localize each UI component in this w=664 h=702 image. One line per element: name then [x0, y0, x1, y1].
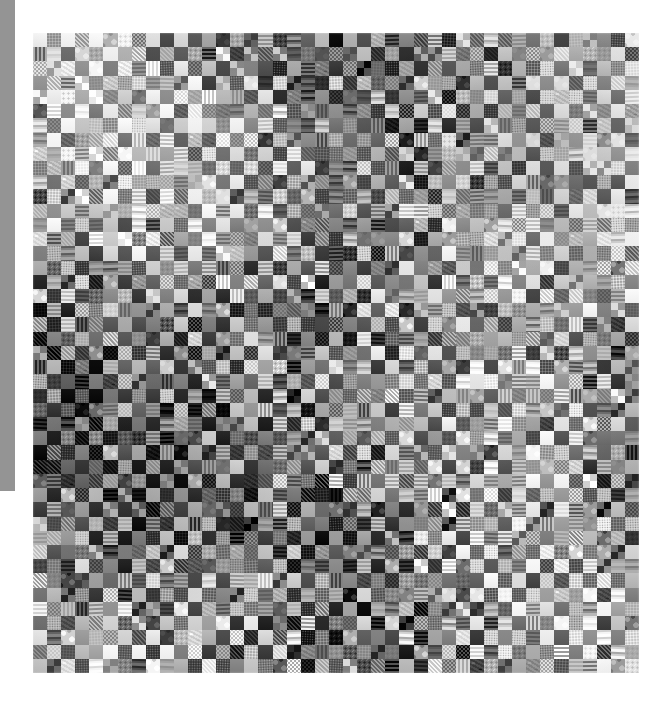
patch-seam-shadow [61, 218, 75, 232]
quilt-patch [540, 445, 554, 459]
patch-seam-shadow [357, 431, 371, 445]
patch-seam-shadow [273, 303, 287, 317]
quilt-patch [287, 275, 301, 289]
quilt-patch [132, 488, 146, 502]
patch-seam-shadow [371, 573, 385, 587]
quilt-patch [202, 360, 216, 374]
patch-seam-shadow [202, 47, 216, 61]
quilt-patch [160, 545, 174, 559]
quilt-patch [146, 261, 160, 275]
patch-seam-shadow [540, 303, 554, 317]
patch-seam-shadow [554, 360, 568, 374]
quilt-patch [315, 602, 329, 616]
patch-seam-shadow [258, 346, 272, 360]
quilt-patch [61, 33, 75, 47]
quilt-patch [33, 303, 47, 317]
patch-seam-shadow [554, 332, 568, 346]
quilt-patch [611, 588, 625, 602]
patch-seam-shadow [315, 559, 329, 573]
quilt-patch [89, 559, 103, 573]
patch-seam-shadow [512, 474, 526, 488]
quilt-patch [357, 502, 371, 516]
quilt-patch [569, 474, 583, 488]
quilt-patch [287, 289, 301, 303]
patch-seam-shadow [230, 133, 244, 147]
patch-seam-shadow [414, 246, 428, 260]
quilt-patch [343, 147, 357, 161]
patch-seam-shadow [132, 47, 146, 61]
quilt-patch [498, 47, 512, 61]
quilt-patch [301, 374, 315, 388]
patch-seam-shadow [625, 417, 639, 431]
patch-seam-shadow [301, 389, 315, 403]
patch-seam-shadow [146, 389, 160, 403]
patch-seam-shadow [75, 61, 89, 75]
patch-seam-shadow [188, 133, 202, 147]
patch-seam-shadow [287, 602, 301, 616]
patch-seam-shadow [146, 517, 160, 531]
quilt-patch [258, 232, 272, 246]
quilt-patch [625, 275, 639, 289]
quilt-patch [188, 161, 202, 175]
patch-seam-shadow [258, 90, 272, 104]
patch-seam-shadow [61, 431, 75, 445]
quilt-patch [118, 246, 132, 260]
patch-seam-shadow [399, 588, 413, 602]
patch-seam-shadow [216, 33, 230, 47]
quilt-patch [625, 360, 639, 374]
quilt-patch [554, 317, 568, 331]
quilt-patch [512, 645, 526, 659]
patch-seam-shadow [498, 559, 512, 573]
patch-seam-shadow [146, 232, 160, 246]
quilt-patch [273, 232, 287, 246]
quilt-patch [258, 104, 272, 118]
patch-seam-shadow [216, 502, 230, 516]
patch-seam-shadow [118, 417, 132, 431]
quilt-patch [258, 346, 272, 360]
patch-seam-shadow [61, 630, 75, 644]
patch-seam-shadow [470, 630, 484, 644]
patch-seam-shadow [526, 573, 540, 587]
patch-seam-shadow [75, 573, 89, 587]
quilt-patch [216, 118, 230, 132]
patch-seam-shadow [258, 317, 272, 331]
patch-seam-shadow [244, 403, 258, 417]
quilt-patch [160, 659, 174, 673]
quilt-patch [174, 275, 188, 289]
patch-seam-shadow [498, 175, 512, 189]
quilt-patch [456, 147, 470, 161]
quilt-patch [569, 61, 583, 75]
patch-seam-shadow [597, 559, 611, 573]
quilt-patch [146, 559, 160, 573]
patch-seam-shadow [371, 33, 385, 47]
quilt-patch [258, 488, 272, 502]
patch-seam-shadow [611, 76, 625, 90]
patch-seam-shadow [554, 61, 568, 75]
quilt-patch [174, 573, 188, 587]
patch-seam-shadow [399, 630, 413, 644]
patch-seam-shadow [569, 445, 583, 459]
quilt-patch [554, 374, 568, 388]
patch-seam-shadow [399, 232, 413, 246]
quilt-patch [343, 545, 357, 559]
patch-seam-shadow [583, 389, 597, 403]
quilt-patch [146, 76, 160, 90]
patch-seam-shadow [287, 317, 301, 331]
patch-seam-shadow [357, 133, 371, 147]
quilt-patch [61, 232, 75, 246]
quilt-patch [583, 630, 597, 644]
quilt-patch [442, 502, 456, 516]
quilt-patch [132, 502, 146, 516]
quilt-patch [512, 175, 526, 189]
patch-seam-shadow [371, 374, 385, 388]
quilt-patch [89, 289, 103, 303]
quilt-patch [442, 602, 456, 616]
quilt-patch [89, 517, 103, 531]
quilt-patch [357, 659, 371, 673]
quilt-patch [583, 76, 597, 90]
quilt-patch [385, 261, 399, 275]
patch-seam-shadow [414, 517, 428, 531]
patch-seam-shadow [526, 246, 540, 260]
quilt-patch [174, 545, 188, 559]
patch-seam-shadow [329, 275, 343, 289]
